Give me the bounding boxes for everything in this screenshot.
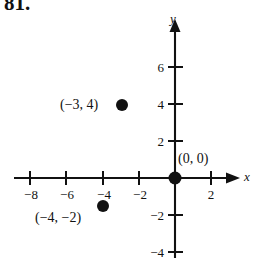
- coordinate-plane: x y −8 −6 −4 −2 2 6 4 2 −2 −4 (−3, 4) (0…: [0, 0, 259, 260]
- data-point-marker: [169, 172, 182, 185]
- point-label-origin: (0, 0): [178, 152, 208, 166]
- y-tick-label-pos6: 6: [148, 61, 164, 74]
- point-label-neg4-neg2: (−4, −2): [35, 211, 81, 225]
- point-label-neg3-4: (−3, 4): [60, 98, 98, 112]
- data-point-marker: [116, 99, 128, 111]
- x-tick-label-neg4: −4: [93, 188, 115, 201]
- x-tick-label-neg6: −6: [56, 188, 78, 201]
- y-tick-label-neg2: −2: [140, 209, 164, 222]
- y-tick-label-neg4: −4: [140, 246, 164, 259]
- y-tick-label-pos2: 2: [148, 135, 164, 148]
- x-tick-label-neg2: −2: [129, 188, 151, 201]
- y-axis-label: y: [170, 12, 176, 25]
- x-axis-label: x: [244, 170, 250, 183]
- x-axis-arrowhead: [226, 173, 240, 184]
- x-tick-label-pos2: 2: [203, 188, 219, 201]
- y-tick-label-pos4: 4: [148, 98, 164, 111]
- figure-canvas: 81.: [0, 0, 259, 260]
- x-tick-label-neg8: −8: [20, 188, 42, 201]
